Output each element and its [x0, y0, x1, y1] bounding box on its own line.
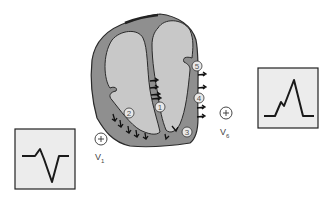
electrode-v6: [220, 107, 232, 119]
svg-text:1: 1: [158, 103, 163, 112]
ecg-box-v6: [258, 68, 318, 128]
svg-text:2: 2: [127, 109, 132, 118]
heart-diagram: 1 2 3 4 5: [0, 0, 331, 199]
step-marker-2: 2: [124, 108, 134, 118]
step-marker-4: 4: [194, 93, 204, 103]
svg-text:4: 4: [197, 94, 202, 103]
svg-text:3: 3: [185, 128, 190, 137]
electrode-v1: [95, 133, 107, 145]
step-marker-3: 3: [182, 127, 192, 137]
step-marker-1: 1: [155, 102, 165, 112]
svg-text:5: 5: [195, 62, 200, 71]
lead-label-v6: V6: [220, 127, 229, 139]
ecg-box-v1: [15, 129, 75, 189]
step-marker-5: 5: [192, 61, 202, 71]
lead-label-v1: V1: [95, 152, 104, 164]
